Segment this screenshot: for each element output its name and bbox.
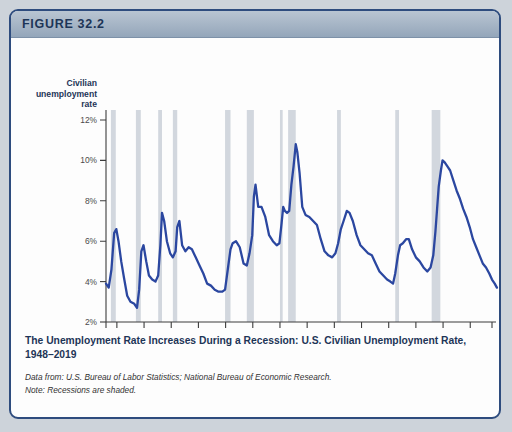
x-axis-tick-label: 1980	[262, 327, 282, 328]
recession-band	[288, 110, 296, 322]
x-axis-tick-label: 2015	[452, 327, 472, 328]
figure-caption: The Unemployment Rate Increases During a…	[11, 328, 499, 396]
y-axis-tick-label: 10%	[80, 155, 97, 165]
y-axis-tick-label: 6%	[85, 236, 98, 246]
source-line: Data from: U.S. Bureau of Labor Statisti…	[25, 371, 485, 383]
recession-band	[111, 110, 116, 322]
x-axis-tick-label: 1975	[235, 327, 255, 328]
unemployment-line-chart: 2%4%6%8%10%12%Civilianunemploymentrate19…	[11, 38, 501, 328]
caption-title: The Unemployment Rate Increases During a…	[25, 334, 485, 362]
x-axis-tick-label: 1990	[317, 327, 337, 328]
caption-source: Data from: U.S. Bureau of Labor Statisti…	[25, 371, 485, 396]
x-axis-tick-label: 2005	[398, 327, 418, 328]
y-axis-title-line: Civilian	[66, 78, 97, 88]
x-axis-tick-label: 1960	[153, 327, 173, 328]
y-axis-tick-label: 8%	[85, 196, 98, 206]
x-axis-tick-label: 1950	[99, 327, 119, 328]
x-axis-tick-label: 1995	[344, 327, 364, 328]
figure-card: FIGURE 32.2 2%4%6%8%10%12%Civilianunempl…	[9, 9, 501, 419]
recession-band	[173, 110, 177, 322]
x-axis-tick-label: 2010	[425, 327, 445, 328]
x-axis-tick-label: 2000	[371, 327, 391, 328]
x-axis-tick-label: 1985	[289, 327, 309, 328]
figure-header: FIGURE 32.2	[11, 11, 499, 38]
x-axis-tick-label: 2019	[474, 327, 494, 328]
x-axis-tick-label: 1955	[126, 327, 146, 328]
recession-band	[337, 110, 341, 322]
x-axis-tick-label: 1965	[181, 327, 201, 328]
y-axis-tick-label: 2%	[85, 317, 98, 327]
note-line: Note: Recessions are shaded.	[25, 384, 485, 396]
recession-band	[395, 110, 399, 322]
y-axis-tick-label: 12%	[80, 115, 97, 125]
y-axis-title-line: rate	[81, 99, 97, 109]
chart-plot-area: 2%4%6%8%10%12%Civilianunemploymentrate19…	[11, 38, 501, 328]
figure-label: FIGURE 32.2	[11, 17, 105, 31]
y-axis-title-line: unemployment	[36, 89, 97, 99]
y-axis-tick-label: 4%	[85, 277, 98, 287]
x-axis-tick-label: 1970	[208, 327, 228, 328]
